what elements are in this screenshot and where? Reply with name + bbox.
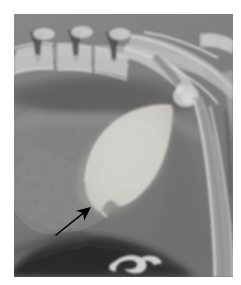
radiograph-canvas (14, 14, 233, 277)
radiograph-image (14, 14, 233, 277)
figure-root (0, 0, 241, 285)
scan-striations (14, 14, 233, 277)
